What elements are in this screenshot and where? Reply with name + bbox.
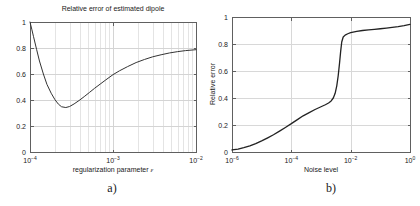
chart-a-ytick-label: 0.4 (16, 97, 26, 104)
chart-b-ytick-label: 0 (224, 149, 228, 156)
chart-b-xtick-label: 10−6 (225, 155, 239, 165)
chart-a-ytick-label: 0 (22, 149, 26, 156)
chart-b-frame (233, 18, 411, 153)
chart-a-xlabel: regularization parameter ε (30, 165, 196, 175)
chart-b-ytick-label: 0.2 (218, 122, 228, 129)
chart-a-xtick-label: 10−2 (189, 155, 203, 165)
chart-a-xtick-label: 10−4 (23, 155, 37, 165)
chart-b-xtick-label: 100 (405, 155, 416, 165)
caption-a: a) (62, 181, 162, 195)
chart-a-title: Relative error of estimated dipole (30, 4, 196, 13)
chart-b-ytick-label: 1 (224, 14, 228, 21)
chart-b-xlabel: Noise level (232, 165, 410, 174)
caption-b: b) (281, 181, 381, 195)
chart-b-xtick-label: 10−4 (285, 155, 299, 165)
chart-a-ytick-label: 0.8 (16, 45, 26, 52)
chart-a-ytick-label: 0.2 (16, 123, 26, 130)
chart-b-ytick-label: 0.4 (218, 95, 228, 102)
chart-a-xtick-label: 10−3 (106, 155, 120, 165)
figure-container: 10−410−310−200.20.40.60.8110−610−410−210… (0, 0, 420, 206)
chart-b-ytick-label: 0.8 (218, 41, 228, 48)
chart-b-curve (232, 24, 410, 150)
chart-b-ylabel: Relative error (209, 63, 216, 105)
chart-a-ytick-label: 0.6 (16, 71, 26, 78)
chart-b-ytick-label: 0.6 (218, 68, 228, 75)
chart-b-xtick-label: 10−2 (344, 155, 358, 165)
chart-a-ytick-label: 1 (22, 19, 26, 26)
